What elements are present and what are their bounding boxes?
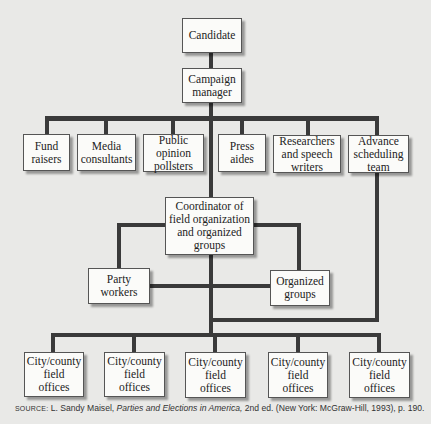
connector	[240, 116, 244, 134]
node-label: consultants	[81, 153, 133, 166]
node-label: Coordinator of	[169, 200, 250, 213]
source-citation: SOURCE: L. Sandy Maisel, Parties and Ele…	[15, 403, 424, 413]
node-label: Campaign	[188, 73, 235, 86]
node-label: field	[352, 369, 406, 382]
connector	[132, 333, 136, 352]
connector	[213, 333, 217, 352]
node-field-office-3: City/countyfieldoffices	[185, 352, 246, 398]
connector	[171, 116, 175, 134]
node-label: and speech	[279, 148, 335, 161]
connector	[209, 53, 213, 68]
connector	[297, 223, 301, 270]
node-label: Organized	[276, 275, 324, 288]
node-label: Fund	[31, 140, 61, 153]
node-candidate: Candidate	[182, 18, 242, 53]
connector	[117, 223, 121, 268]
node-label: Public	[154, 134, 193, 147]
node-party-workers: Partyworkers	[88, 268, 150, 304]
source-title: Parties and Elections in America,	[117, 403, 243, 413]
node-label: offices	[352, 382, 406, 395]
node-press-aides: Pressaides	[218, 134, 266, 172]
node-label: and organized	[169, 226, 250, 239]
source-label: SOURCE:	[15, 405, 48, 412]
node-label: Party	[100, 273, 137, 286]
connector	[306, 116, 310, 135]
node-label: scheduling	[354, 148, 404, 161]
node-campaign-manager: Campaignmanager	[182, 68, 242, 103]
node-label: field organization	[169, 213, 250, 226]
node-label: groups	[276, 288, 324, 301]
node-label: field	[27, 368, 81, 381]
node-label: aides	[230, 153, 254, 166]
org-chart: Candidate Campaignmanager Fundraisers Me…	[0, 0, 431, 424]
node-label: offices	[188, 382, 242, 395]
node-field-office-4: City/countyfieldoffices	[268, 352, 328, 398]
connector	[117, 223, 165, 227]
node-label: Candidate	[189, 29, 236, 42]
node-label: Media	[81, 140, 133, 153]
source-details: 2nd ed. (New York: McGraw-Hill, 1993), p…	[242, 403, 424, 413]
node-label: pollsters	[154, 160, 193, 173]
node-label: offices	[107, 381, 161, 394]
node-label: offices	[271, 382, 325, 395]
node-label: field	[107, 368, 161, 381]
connector	[149, 284, 270, 288]
node-fund-raisers: Fundraisers	[23, 134, 70, 171]
node-label: field	[188, 369, 242, 382]
connector	[45, 116, 379, 121]
connector	[45, 116, 49, 134]
node-label: groups	[169, 239, 250, 252]
node-organized-groups: Organizedgroups	[270, 270, 330, 306]
node-media-consultants: Mediaconsultants	[77, 134, 136, 171]
node-researchers-speech-writers: Researchersand speechwriters	[273, 135, 341, 173]
node-field-office-1: City/countyfieldoffices	[24, 352, 84, 397]
node-label: City/county	[27, 355, 81, 368]
node-label: raisers	[31, 153, 61, 166]
node-label: manager	[188, 86, 235, 99]
node-label: opinion	[154, 147, 193, 160]
node-field-office-5: City/countyfieldoffices	[349, 352, 410, 398]
node-label: City/county	[107, 355, 161, 368]
node-label: workers	[100, 286, 137, 299]
node-label: team	[354, 161, 404, 174]
node-label: writers	[279, 161, 335, 174]
node-label: City/county	[271, 356, 325, 369]
node-field-office-2: City/countyfieldoffices	[104, 352, 165, 397]
connector	[213, 318, 379, 322]
connector	[377, 333, 381, 352]
source-author: L. Sandy Maisel,	[48, 403, 116, 413]
node-coordinator: Coordinator offield organizationand orga…	[165, 197, 254, 255]
node-public-opinion-pollsters: Publicopinionpollsters	[143, 134, 204, 172]
connector	[51, 333, 55, 352]
node-label: Press	[230, 140, 254, 153]
node-label: City/county	[188, 356, 242, 369]
node-label: Researchers	[279, 135, 335, 148]
connector	[296, 333, 300, 352]
connector	[104, 116, 108, 134]
node-label: City/county	[352, 356, 406, 369]
connector	[253, 223, 301, 227]
node-label: offices	[27, 381, 81, 394]
node-label: Advance	[354, 135, 404, 148]
node-advance-scheduling-team: Advanceschedulingteam	[348, 135, 409, 173]
node-label: field	[271, 369, 325, 382]
